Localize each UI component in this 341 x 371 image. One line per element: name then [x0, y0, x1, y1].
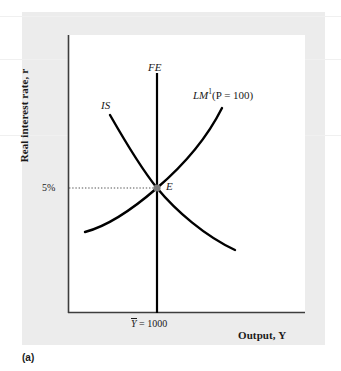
y-axis-title: Real interest rate, r: [19, 61, 30, 171]
fe-curve-label: FE: [148, 62, 161, 73]
is-curve-label: IS: [101, 100, 110, 111]
lm-curve-label-base: LM: [193, 89, 208, 101]
lm-curve-label: LM1(P = 100): [193, 88, 253, 101]
plot-area-background: [68, 35, 305, 313]
y-axis-tick-label-5-percent: 5%: [42, 183, 55, 193]
lm-curve-label-paren: (P = 100): [212, 89, 253, 101]
x-axis-title: Output, Y: [238, 330, 286, 341]
y-bar-value: = 1000: [137, 318, 168, 329]
x-axis-tick-label-full-employment-output: Y = 1000: [131, 318, 167, 329]
equilibrium-point-marker: [153, 184, 160, 191]
equilibrium-point-label: E: [166, 181, 173, 192]
figure-container: Real interest rate, r Output, Y FE IS LM…: [0, 0, 341, 371]
figure-caption: (a): [22, 353, 34, 363]
